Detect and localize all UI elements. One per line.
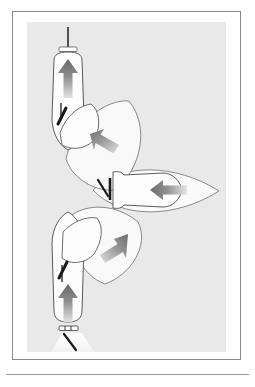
boat-maneuver-diagram (0, 0, 255, 387)
baseline-rule (6, 374, 249, 375)
figure-root: Boat turning maneuver sequence Three sta… (0, 0, 255, 387)
boat-bottom (52, 212, 101, 350)
rudder-marker-bottom (59, 326, 78, 331)
mast-marker-top (59, 47, 77, 52)
